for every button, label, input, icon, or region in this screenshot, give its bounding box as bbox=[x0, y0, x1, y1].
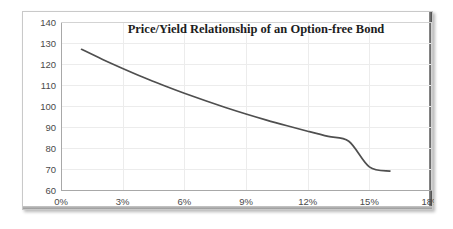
chart-frame: 60708090100110120130140 0%3%6%9%12%15%18… bbox=[22, 11, 433, 210]
price-yield-curve bbox=[82, 49, 390, 171]
y-axis-tick-label: 130 bbox=[40, 38, 56, 49]
x-axis-tick-label: 9% bbox=[239, 196, 253, 207]
y-axis-tick-label: 80 bbox=[45, 143, 56, 154]
x-axis-tick-label: 3% bbox=[116, 196, 130, 207]
y-axis-tick-label: 110 bbox=[41, 80, 56, 91]
y-axis-tick-labels: 60708090100110120130140 bbox=[40, 17, 56, 196]
price-yield-line-chart: 60708090100110120130140 0%3%6%9%12%15%18… bbox=[23, 12, 434, 211]
chart-figure: 60708090100110120130140 0%3%6%9%12%15%18… bbox=[0, 0, 453, 229]
y-axis-tick-label: 120 bbox=[40, 59, 56, 70]
x-axis-tick-label: 12% bbox=[298, 196, 318, 207]
x-axis-tick-label: 6% bbox=[177, 196, 191, 207]
y-axis-tick-label: 70 bbox=[45, 164, 56, 175]
y-axis-tick-label: 100 bbox=[40, 101, 56, 112]
y-axis-tick-label: 60 bbox=[45, 185, 56, 196]
x-axis-tick-label: 0% bbox=[54, 196, 68, 207]
chart-title: Price/Yield Relationship of an Option-fr… bbox=[128, 22, 385, 36]
y-axis-tick-label: 140 bbox=[40, 17, 56, 28]
y-axis-tick-label: 90 bbox=[45, 122, 56, 133]
x-axis-tick-labels: 0%3%6%9%12%15%18% bbox=[54, 196, 434, 207]
x-axis-tick-label: 18% bbox=[421, 196, 434, 207]
x-axis-tick-label: 15% bbox=[360, 196, 380, 207]
